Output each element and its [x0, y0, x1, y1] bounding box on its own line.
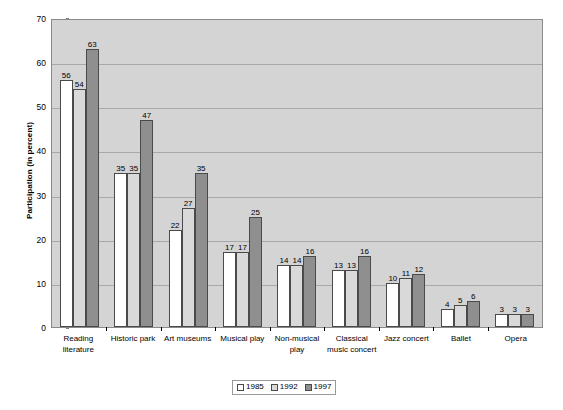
bar-group: 131316 [324, 20, 378, 327]
bar-value-label: 47 [142, 111, 151, 120]
bar[interactable]: 16 [303, 256, 316, 327]
bar[interactable]: 17 [223, 252, 236, 327]
bar-value-label: 5 [458, 296, 462, 305]
bar[interactable]: 4 [441, 309, 454, 327]
bar[interactable]: 6 [467, 301, 480, 327]
y-axis-tick-label: 10 [18, 279, 46, 289]
bar[interactable]: 35 [127, 173, 140, 328]
bar[interactable]: 25 [249, 217, 262, 327]
bar[interactable]: 5 [454, 305, 467, 327]
y-axis-tick-label: 70 [18, 14, 46, 24]
bar-value-label: 54 [75, 80, 84, 89]
chart-legend: 198519921997 [232, 380, 336, 395]
bar-group-bars: 101112 [379, 20, 433, 327]
bar[interactable]: 3 [521, 314, 534, 327]
bar-value-label: 27 [184, 199, 193, 208]
bar-group-bars: 333 [488, 20, 542, 327]
x-axis-category-label: Classical music concert [324, 333, 379, 355]
bar[interactable]: 11 [399, 278, 412, 327]
bar-group-bars: 456 [433, 20, 487, 327]
bar[interactable]: 17 [236, 252, 249, 327]
legend-item-label: 1997 [314, 382, 332, 392]
bar-group: 222735 [161, 20, 215, 327]
bar[interactable]: 22 [169, 230, 182, 327]
x-axis-tick-mark [488, 327, 489, 331]
x-axis-category-label: Historic park [106, 333, 161, 355]
bar[interactable]: 12 [412, 274, 425, 327]
bar-value-label: 35 [116, 164, 125, 173]
bar-value-label: 17 [225, 243, 234, 252]
legend-item-label: 1992 [280, 382, 298, 392]
bar[interactable]: 13 [345, 270, 358, 327]
x-axis-category-label: Non-musical play [270, 333, 325, 355]
x-axis-category-label: Art museums [160, 333, 215, 355]
bar-group-bars: 141416 [270, 20, 324, 327]
legend-item[interactable]: 1985 [237, 382, 264, 392]
bar[interactable]: 13 [332, 270, 345, 327]
bar-value-label: 11 [402, 269, 410, 278]
y-axis-tick-label: 40 [18, 146, 46, 156]
bar[interactable]: 54 [73, 89, 86, 327]
x-axis-category-labels: Reading literatureHistoric parkArt museu… [51, 333, 543, 355]
bar-value-label: 16 [360, 247, 369, 256]
bar[interactable]: 14 [277, 265, 290, 327]
x-axis-tick-mark [161, 327, 162, 331]
bar-value-label: 56 [62, 71, 71, 80]
bar-group: 101112 [379, 20, 433, 327]
x-axis-tick-mark [433, 327, 434, 331]
x-axis-category-label: Musical play [215, 333, 270, 355]
bar-value-label: 16 [306, 247, 315, 256]
bar-value-label: 25 [251, 208, 260, 217]
y-axis-tick-label: 0 [18, 323, 46, 333]
y-axis-tick-label: 60 [18, 58, 46, 68]
x-axis-tick-mark [106, 327, 107, 331]
bar-value-label: 22 [171, 221, 180, 230]
x-axis-tick-mark [270, 327, 271, 331]
bar[interactable]: 3 [508, 314, 521, 327]
bar[interactable]: 63 [86, 49, 99, 327]
bar-group: 171725 [215, 20, 269, 327]
plot-area: 5654633535472227351717251414161313161011… [51, 19, 543, 328]
x-axis-category-label: Jazz concert [379, 333, 434, 355]
bar-groups: 5654633535472227351717251414161313161011… [52, 20, 542, 327]
bar-group-bars: 565463 [52, 20, 106, 327]
bar-group-bars: 222735 [161, 20, 215, 327]
bar[interactable]: 47 [140, 120, 153, 327]
bar-value-label: 35 [197, 164, 206, 173]
bar-value-label: 17 [238, 243, 247, 252]
x-axis-tick-mark [324, 327, 325, 331]
bar-value-label: 13 [347, 261, 356, 270]
bar-chart-figure: Participation (in percent) 0102030405060… [0, 0, 563, 410]
bar[interactable]: 27 [182, 208, 195, 327]
x-axis-category-label: Ballet [434, 333, 489, 355]
bar[interactable]: 16 [358, 256, 371, 327]
legend-swatch-icon [271, 384, 278, 391]
bar[interactable]: 3 [495, 314, 508, 327]
legend-item-label: 1985 [246, 382, 264, 392]
bar-value-label: 3 [512, 305, 516, 314]
bar-value-label: 13 [334, 261, 343, 270]
bar-group-bars: 131316 [324, 20, 378, 327]
y-axis-tick-labels: 010203040506070 [18, 19, 46, 328]
bar[interactable]: 35 [195, 173, 208, 328]
bar-value-label: 3 [499, 305, 503, 314]
y-axis-tick-label: 20 [18, 235, 46, 245]
bar-group: 565463 [52, 20, 106, 327]
bar[interactable]: 35 [114, 173, 127, 328]
bar[interactable]: 14 [290, 265, 303, 327]
bar-value-label: 3 [525, 305, 529, 314]
x-axis-tick-mark [215, 327, 216, 331]
x-axis-tick-mark [379, 327, 380, 331]
legend-swatch-icon [305, 384, 312, 391]
bar-value-label: 14 [280, 256, 289, 265]
x-axis-category-label: Reading literature [51, 333, 106, 355]
bar-value-label: 4 [445, 300, 449, 309]
bar-group: 456 [433, 20, 487, 327]
bar-group: 353547 [106, 20, 160, 327]
bar-value-label: 35 [129, 164, 138, 173]
legend-swatch-icon [237, 384, 244, 391]
legend-item[interactable]: 1992 [271, 382, 298, 392]
legend-item[interactable]: 1997 [305, 382, 332, 392]
bar[interactable]: 56 [60, 80, 73, 327]
bar[interactable]: 10 [386, 283, 399, 327]
